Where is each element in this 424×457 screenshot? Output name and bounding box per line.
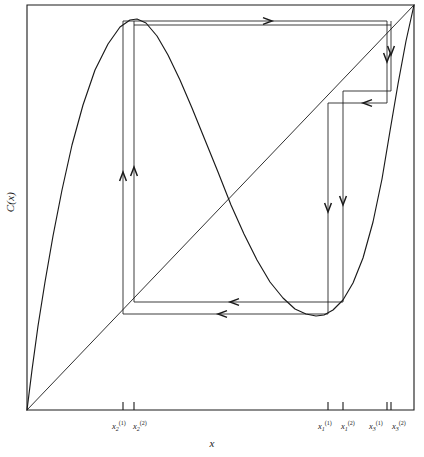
plot-canvas [0, 0, 424, 457]
tick-x1-2: x1(2) [341, 420, 355, 432]
identity-diagonal-line [27, 5, 414, 410]
x-axis-title: x [0, 437, 424, 449]
tick-label-superscript: (1) [376, 420, 383, 426]
tick-x3-1: x3(1) [369, 420, 383, 432]
y-axis-title: C(x) [4, 179, 16, 225]
y-axis-title-text: C(x) [4, 192, 16, 212]
tick-label-subscript: 2 [137, 426, 140, 432]
x-axis-title-text: x [209, 437, 214, 449]
tick-label-subscript: 2 [116, 426, 119, 432]
tick-x2-2: x2(2) [133, 420, 147, 432]
tick-x1-1: x1(1) [318, 420, 332, 432]
tick-label-superscript: (1) [325, 420, 332, 426]
tick-label-superscript: (2) [348, 420, 355, 426]
tick-label-subscript: 3 [373, 426, 376, 432]
svg-layer [27, 5, 414, 410]
figure-root: C(x) x x2(1)x2(2)x1(1)x1(2)x3(1)x3(2) [0, 0, 424, 457]
tick-label-subscript: 1 [345, 426, 348, 432]
tick-label-superscript: (1) [119, 420, 126, 426]
tick-label-superscript: (2) [140, 420, 147, 426]
tick-label-subscript: 1 [322, 426, 325, 432]
tick-x2-1: x2(1) [112, 420, 126, 432]
tick-label-superscript: (2) [399, 420, 406, 426]
tick-x3-2: x3(2) [392, 420, 406, 432]
tick-label-subscript: 3 [396, 426, 399, 432]
